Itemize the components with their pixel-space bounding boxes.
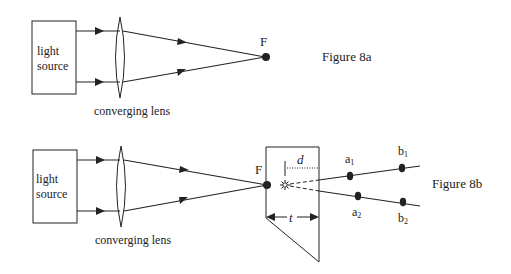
ray-arrow-icons xyxy=(95,27,104,86)
lens-label: converging lens xyxy=(94,104,170,118)
point-b1 xyxy=(399,164,405,172)
label-a2: a2 xyxy=(352,205,361,220)
point-a1 xyxy=(347,172,353,180)
virtual-rays xyxy=(290,180,319,191)
converging-rays xyxy=(123,31,265,82)
converging-lens-icon xyxy=(117,146,126,227)
depth-label: d xyxy=(297,152,304,167)
ray-arrow-icons xyxy=(177,38,187,76)
point-b2 xyxy=(400,198,406,206)
glass-block xyxy=(266,147,319,262)
figure-caption: Figure 8b xyxy=(432,176,482,191)
image-star-icon xyxy=(280,180,290,190)
light-source-label-line1: light xyxy=(37,44,60,58)
incoming-rays xyxy=(77,160,120,211)
focal-point-label: F xyxy=(260,34,267,49)
lens-label: converging lens xyxy=(95,233,171,247)
label-a1: a1 xyxy=(345,152,354,167)
optics-diagram: light source converging lens F Figure 8a xyxy=(0,0,511,274)
label-b1: b1 xyxy=(398,144,408,159)
point-a2 xyxy=(355,192,361,200)
figure-8b: light source converging lens F xyxy=(33,144,482,262)
light-source-label-line2: source xyxy=(36,187,67,201)
incoming-rays xyxy=(76,31,120,82)
converging-rays xyxy=(124,160,267,211)
converging-lens-icon xyxy=(116,17,125,98)
figure-8a: light source converging lens F Figure 8a xyxy=(32,17,372,118)
thickness-label: t xyxy=(289,210,293,225)
focal-point xyxy=(262,53,270,61)
figure-caption: Figure 8a xyxy=(322,49,372,64)
focal-point xyxy=(263,181,271,189)
light-source-label-line2: source xyxy=(37,59,68,73)
light-source-label-line1: light xyxy=(36,172,59,186)
focal-point-label: F xyxy=(255,162,262,177)
label-b2: b2 xyxy=(398,211,408,226)
ray-arrow-icons xyxy=(96,156,105,215)
